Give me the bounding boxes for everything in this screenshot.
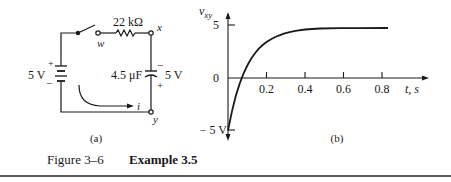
panel-b-label: (b): [331, 132, 344, 145]
terminal-x: [149, 31, 153, 35]
x-tick-0.8: 0.8: [375, 82, 390, 96]
current-label: i: [137, 100, 140, 112]
cap-minus-sign: −: [157, 59, 163, 71]
voltage-curve: [228, 28, 388, 131]
y-tick-0: 0: [213, 71, 219, 85]
figure-title: Example 3.5: [129, 152, 198, 167]
x-tick-0.4: 0.4: [298, 82, 313, 96]
source-voltage-label: 5 V: [28, 68, 46, 82]
figure-number: Figure 3–6: [47, 152, 129, 168]
x-axis-arrow-icon: [422, 76, 429, 81]
y-axis-label: vxy: [199, 4, 212, 20]
wire-left-top: [61, 33, 78, 59]
y-axis-arrow-up-icon: [226, 12, 231, 19]
capacitor-label: 4.5 μF: [111, 68, 142, 82]
source-minus-sign: −: [46, 77, 52, 89]
y-tick-5: 5: [213, 18, 219, 32]
resistor-icon: [116, 30, 135, 36]
y-tick-minus5: − 5 V: [200, 123, 228, 137]
figure-caption: Figure 3–6Example 3.5: [47, 152, 198, 168]
node-w-label: w: [97, 37, 105, 49]
node-y-label: y: [152, 113, 158, 125]
cap-plus-sign: +: [157, 79, 163, 91]
x-axis-label: t, s: [405, 82, 419, 96]
capacitor-voltage-label: 5 V: [165, 68, 183, 82]
panel-a-label: (a): [90, 132, 103, 145]
terminal-w: [96, 31, 100, 35]
node-x-label: x: [156, 21, 162, 33]
resistor-label: 22 kΩ: [113, 15, 143, 29]
source-plus-sign: +: [48, 58, 54, 69]
switch-icon: [78, 25, 95, 33]
x-tick-0.6: 0.6: [336, 82, 351, 96]
wire-bottom: [61, 85, 149, 112]
graph-axes: [226, 12, 430, 141]
battery-icon: [55, 59, 67, 85]
switch-pivot: [76, 31, 79, 34]
bottom-rule-divider: [0, 175, 451, 177]
x-tick-0.2: 0.2: [259, 82, 274, 96]
current-arrow-icon: [79, 85, 128, 106]
